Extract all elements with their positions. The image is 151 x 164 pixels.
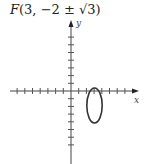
x-axis-label: x xyxy=(134,95,139,105)
x-axis-arrow-icon xyxy=(132,89,139,94)
y-axis-label: y xyxy=(75,18,82,28)
y-axis-arrow-icon xyxy=(69,20,74,27)
coordinate-plane: y x xyxy=(0,0,151,164)
